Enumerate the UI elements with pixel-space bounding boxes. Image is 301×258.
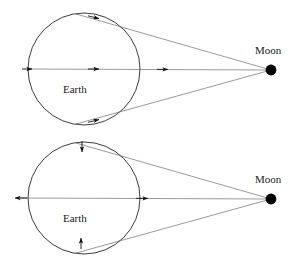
moon-body-bottom bbox=[266, 194, 277, 205]
tidal-force-figure: Earth Moon Earth Moon bbox=[0, 0, 301, 258]
tangent-ray-lower-top bbox=[76, 70, 271, 124]
diagram-panel-bottom: Earth Moon bbox=[0, 129, 301, 258]
tangent-ray-upper-bottom bbox=[76, 143, 271, 199]
diagram-panel-top: Earth Moon bbox=[0, 0, 301, 129]
earth-moon-axis-top bbox=[27, 69, 271, 70]
earth-label-bottom: Earth bbox=[63, 212, 87, 224]
moon-label-bottom: Moon bbox=[255, 173, 282, 185]
tangent-ray-lower-bottom bbox=[76, 199, 271, 253]
moon-label-top: Moon bbox=[255, 44, 282, 56]
moon-body-top bbox=[266, 65, 277, 76]
tangent-ray-upper-top bbox=[76, 14, 271, 70]
earth-label-top: Earth bbox=[63, 83, 87, 95]
